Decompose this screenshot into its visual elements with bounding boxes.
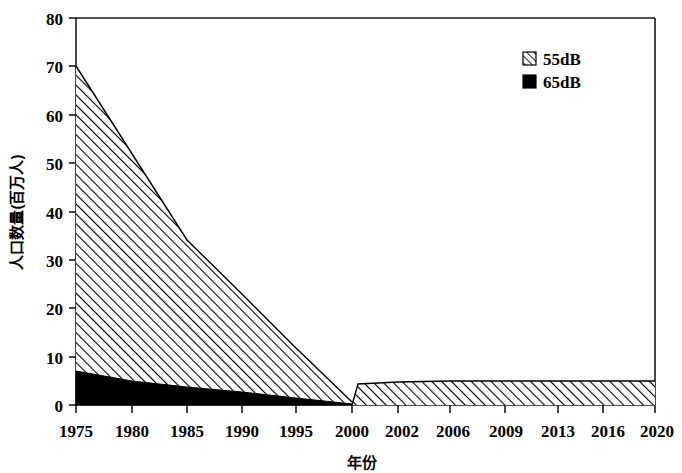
chart-figure: 80 70 60 50 40 30 20 10 0 1975 bbox=[0, 0, 682, 473]
y-tick-label: 80 bbox=[46, 10, 63, 29]
y-tick-label: 20 bbox=[46, 300, 63, 319]
x-axis-title: 年份 bbox=[347, 454, 378, 471]
x-tick-label: 2009 bbox=[489, 422, 523, 441]
y-tick-label: 40 bbox=[46, 204, 63, 223]
x-tick-label: 1990 bbox=[225, 422, 259, 441]
x-tick-label: 1985 bbox=[170, 422, 204, 441]
legend-label-55db: 55dB bbox=[543, 50, 581, 69]
series-55db-plateau-fill bbox=[352, 381, 655, 405]
x-tick-label: 2002 bbox=[385, 422, 419, 441]
legend-label-65db: 65dB bbox=[543, 73, 581, 92]
chart-svg: 80 70 60 50 40 30 20 10 0 1975 bbox=[0, 0, 682, 473]
y-tick-label: 0 bbox=[55, 397, 64, 416]
y-tick-label: 50 bbox=[46, 155, 63, 174]
x-tick-label: 2000 bbox=[335, 422, 369, 441]
y-tick-label: 30 bbox=[46, 252, 63, 271]
x-tick-label: 2006 bbox=[436, 422, 470, 441]
y-axis-title: 人口数量(百万人) bbox=[8, 155, 25, 270]
x-tick-label: 1995 bbox=[279, 422, 313, 441]
x-tick-label: 2013 bbox=[541, 422, 575, 441]
y-tick-label: 10 bbox=[46, 349, 63, 368]
x-tick-label: 1975 bbox=[59, 422, 93, 441]
x-tick-label: 2016 bbox=[591, 422, 625, 441]
legend-swatch-65db bbox=[523, 75, 536, 88]
x-tick-label: 1980 bbox=[115, 422, 149, 441]
legend-swatch-55db bbox=[523, 52, 536, 65]
y-tick-label: 60 bbox=[46, 107, 63, 126]
y-tick-label: 70 bbox=[46, 58, 63, 77]
y-axis-tick-labels: 80 70 60 50 40 30 20 10 0 bbox=[46, 10, 63, 416]
x-tick-label: 2020 bbox=[640, 422, 674, 441]
